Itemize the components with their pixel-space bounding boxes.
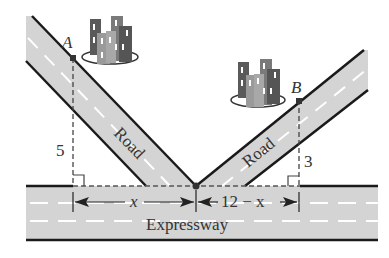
label-3: 3 <box>304 152 313 171</box>
label-A: A <box>61 33 73 52</box>
buildings-A-icon <box>82 16 138 64</box>
road-diagram: A B 5 3 Road Road x 12 − x Expressway <box>0 0 389 258</box>
label-B: B <box>291 78 302 97</box>
right-road <box>196 50 368 186</box>
point-A-marker <box>70 55 76 61</box>
junction-point <box>193 183 200 190</box>
buildings-B-icon <box>231 59 285 107</box>
label-12-minus-x: 12 − x <box>221 192 265 211</box>
label-expressway: Expressway <box>146 215 229 234</box>
label-x: x <box>129 192 138 211</box>
label-5: 5 <box>56 141 65 160</box>
point-B-marker <box>296 98 302 104</box>
